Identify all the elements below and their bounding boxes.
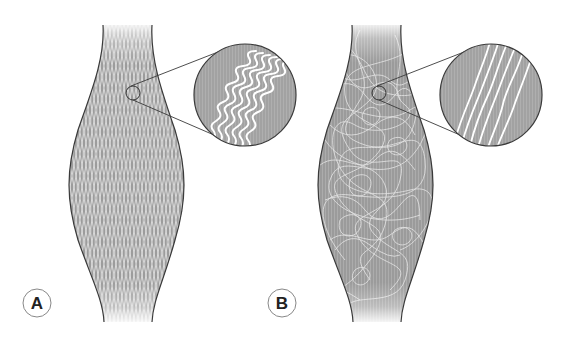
- panel-label-a-text: A: [31, 294, 43, 313]
- panel-b: B: [268, 20, 546, 325]
- muscle-body-a: [60, 20, 195, 325]
- muscle-body-b: [310, 20, 445, 325]
- panel-label-a: A: [23, 289, 51, 317]
- panel-label-b-text: B: [276, 294, 288, 313]
- panel-label-b: B: [268, 289, 296, 317]
- panel-a: A: [23, 20, 300, 325]
- figure-canvas: A: [0, 0, 569, 343]
